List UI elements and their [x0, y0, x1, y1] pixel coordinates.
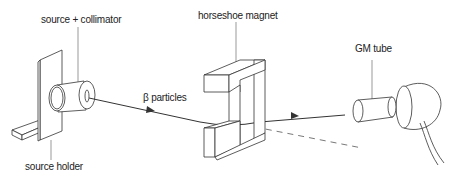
horseshoe-magnet	[204, 60, 265, 160]
beta-particle-path	[89, 98, 345, 125]
label-gm-tube: GM tube	[355, 43, 392, 54]
apparatus-diagram	[0, 0, 451, 183]
arrow-icon	[291, 112, 299, 119]
label-source-collimator: source + collimator	[41, 14, 121, 25]
label-beta-particles: β particles	[143, 92, 187, 103]
label-source-holder: source holder	[25, 161, 83, 172]
source-collimator	[49, 81, 95, 112]
gm-tube	[353, 83, 444, 165]
undeflected-path	[255, 127, 362, 148]
label-horseshoe-magnet: horseshoe magnet	[198, 10, 278, 21]
